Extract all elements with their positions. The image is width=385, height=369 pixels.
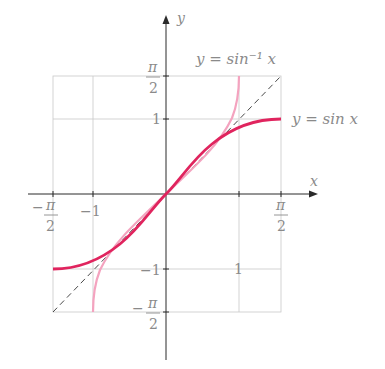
- sin-annotation: y = sin x: [291, 110, 359, 128]
- arcsin-annotation: y = sin⁻¹ x: [195, 50, 276, 68]
- y-label-neg-pi-half-num: π: [147, 295, 158, 311]
- inverse-sine-diagram: − π 2 −1 π 2 1 π 2 1 −1 − π 2 y x y = si…: [0, 0, 385, 369]
- x-label-neg1: −1: [80, 203, 101, 219]
- plot-canvas: − π 2 −1 π 2 1 π 2 1 −1 − π 2 y x y = si…: [0, 0, 385, 369]
- y-label-pi-half-num: π: [147, 59, 158, 75]
- y-label-neg1: −1: [140, 262, 161, 278]
- x-label-neg-pi-half-den: 2: [46, 218, 55, 234]
- x-label-pi-half-num: π: [275, 197, 286, 213]
- y-label-pi-half-den: 2: [149, 80, 158, 96]
- x-label-neg-pi-half-sign: −: [32, 199, 44, 215]
- y-axis-arrow-icon: [163, 15, 170, 24]
- y-label-neg-pi-half-den: 2: [149, 316, 158, 332]
- y-label-1: 1: [152, 111, 161, 127]
- x-axis-arrow-icon: [309, 191, 318, 198]
- y-tick-labels: π 2 1 −1 − π 2: [132, 59, 161, 332]
- x-axis-label: x: [310, 173, 318, 189]
- x-label-neg-pi-half-num: π: [45, 197, 56, 213]
- x-label-pi-half-den: 2: [277, 218, 286, 234]
- x-label-1: 1: [234, 261, 243, 277]
- y-axis-label: y: [176, 10, 186, 26]
- y-label-neg-pi-half-sign: −: [132, 300, 144, 316]
